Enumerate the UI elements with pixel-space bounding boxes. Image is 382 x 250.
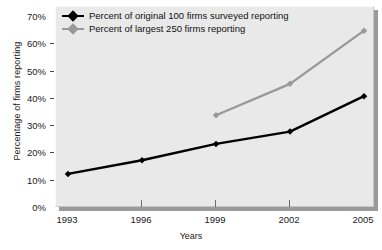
y-axis-tick-labels: 0%10%20%30%40%50%60%70% [0,0,52,250]
y-axis-tick-label: 20% [27,147,46,158]
y-axis-tick-mark [50,180,54,181]
y-axis-tick-mark [50,71,54,72]
x-axis-tick-label: 1999 [204,214,225,225]
y-axis-tick-mark [50,125,54,126]
legend-item: Percent of largest 250 firms reporting [62,22,289,35]
legend-item: Percent of original 100 firms surveyed r… [62,9,289,22]
legend-label: Percent of original 100 firms surveyed r… [89,10,289,21]
y-axis-tick-mark [50,43,54,44]
x-axis-tick-label: 1993 [56,214,77,225]
x-axis-title: Years [0,231,382,241]
y-axis-tick-mark [50,98,54,99]
y-axis-tick-mark [50,152,54,153]
x-axis-tick-label: 1996 [130,214,151,225]
y-axis-tick-label: 50% [27,65,46,76]
data-point-marker [213,112,220,119]
y-axis-tick-label: 40% [27,92,46,103]
series-line [68,96,364,174]
x-axis-tick-mark [141,200,142,207]
legend-marker-icon [62,10,84,21]
chart-legend: Percent of original 100 firms surveyed r… [62,9,289,35]
x-axis-tick-label: 2005 [352,214,373,225]
y-axis-tick-label: 10% [27,174,46,185]
chart-container: Percentage of firms reporting 0%10%20%30… [0,0,382,250]
x-axis-tick-mark [215,200,216,207]
plot-area [55,6,374,207]
y-axis-tick-label: 30% [27,120,46,131]
series-lines [56,7,374,207]
data-point-marker [65,171,72,178]
y-axis-tick-label: 70% [27,11,46,22]
series-line [216,31,364,116]
x-axis-tick-label: 2002 [278,214,299,225]
data-point-marker [213,141,220,148]
data-point-marker [139,157,146,164]
x-axis-tick-mark [289,200,290,207]
y-axis-tick-label: 0% [32,202,46,213]
y-axis-tick-label: 60% [27,38,46,49]
legend-label: Percent of largest 250 firms reporting [89,23,245,34]
legend-marker-icon [62,23,84,34]
